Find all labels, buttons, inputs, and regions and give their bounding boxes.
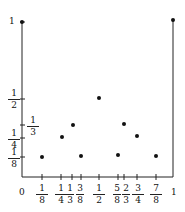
x-label-0: 0 — [19, 187, 25, 197]
data-points — [20, 18, 175, 159]
x-label-7-8: 78 — [150, 184, 162, 205]
x-label-3-8: 38 — [76, 184, 84, 205]
plot-area — [0, 0, 185, 212]
x-label-1-2: 12 — [93, 184, 105, 205]
y-label-1-3: 13 — [27, 116, 39, 137]
y-label-1-8: 18 — [8, 148, 20, 169]
y-label-1: 1 — [9, 16, 15, 26]
x-label-1-3: 13 — [66, 184, 74, 205]
y-label-1-2: 12 — [8, 89, 20, 110]
x-label-3-4: 34 — [132, 184, 144, 205]
x-label-5-8: 58 — [113, 184, 121, 205]
x-label-1-8: 18 — [36, 184, 48, 205]
x-label-1: 1 — [171, 187, 177, 197]
x-label-2-3: 23 — [122, 184, 130, 205]
